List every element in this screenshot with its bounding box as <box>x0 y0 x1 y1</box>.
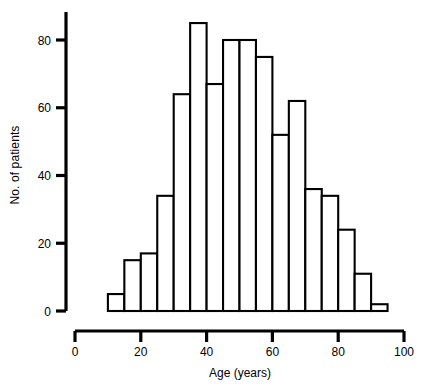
y-axis-tick-label: 0 <box>44 305 51 319</box>
y-axis: 020406080 <box>38 12 66 319</box>
y-axis-tick-label: 20 <box>38 237 52 251</box>
histogram-bar <box>322 196 338 311</box>
x-axis-tick-label: 40 <box>200 345 214 359</box>
histogram-bar <box>207 84 223 311</box>
y-axis-label-container: No. of patients <box>2 0 28 330</box>
histogram-bar <box>355 274 371 311</box>
histogram-bar <box>289 101 305 311</box>
histogram-bar <box>157 196 173 311</box>
histogram-bar <box>240 40 256 311</box>
histogram-bar <box>124 260 140 311</box>
y-axis-tick-label: 40 <box>38 169 52 183</box>
y-axis-tick-label: 60 <box>38 101 52 115</box>
x-axis-tick-label: 20 <box>134 345 148 359</box>
x-axis-tick-label: 80 <box>332 345 346 359</box>
histogram-bar <box>190 23 206 311</box>
histogram-bar <box>272 135 288 311</box>
histogram-bar <box>305 189 321 311</box>
histogram-bar <box>338 230 354 311</box>
x-axis-tick-label: 100 <box>394 345 414 359</box>
histogram-bar <box>371 304 387 311</box>
y-axis-label: No. of patients <box>8 126 22 205</box>
y-axis-tick-label: 80 <box>38 34 52 48</box>
histogram-bar <box>174 94 190 311</box>
histogram-bar <box>141 253 157 311</box>
histogram-bar <box>256 57 272 311</box>
x-axis-tick-label: 0 <box>72 345 79 359</box>
x-axis: 020406080100 <box>72 331 415 359</box>
histogram-figure: No. of patients 020406080 020406080100 A… <box>0 0 426 389</box>
histogram-bar <box>223 40 239 311</box>
x-axis-tick-label: 60 <box>266 345 280 359</box>
histogram-plot-area: 020406080 020406080100 <box>0 0 426 389</box>
bars-group <box>108 23 388 311</box>
x-axis-label: Age (years) <box>75 366 405 380</box>
histogram-bar <box>108 294 124 311</box>
